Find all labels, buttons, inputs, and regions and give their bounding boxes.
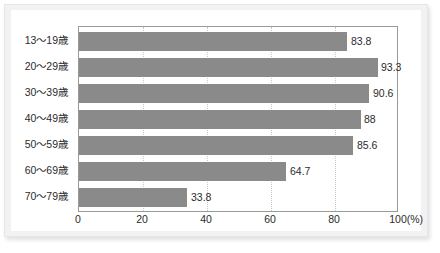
category-label: 50〜59歳	[25, 139, 68, 150]
xtick-label: 80	[328, 214, 340, 225]
bar-value-label: 88	[364, 114, 376, 125]
bar-30-39	[79, 84, 369, 103]
bar-value-label: 93.3	[381, 62, 401, 73]
bar-series: 83.8 93.3 90.6 88 85.6 64.7 33.8	[79, 27, 397, 211]
category-label: 20〜29歳	[25, 61, 68, 72]
value-axis: 0 20 40 60 80 100(%)	[0, 214, 440, 234]
bar-value-label: 83.8	[351, 36, 371, 47]
bar-value-label: 33.8	[191, 192, 211, 203]
xtick-label: 100(%)	[389, 214, 423, 225]
chart-figure: 13〜19歳 20〜29歳 30〜39歳 40〜49歳 50〜59歳 60〜69…	[0, 0, 440, 253]
xtick-label: 20	[136, 214, 148, 225]
bar-60-69	[79, 162, 286, 181]
xtick-label: 60	[264, 214, 276, 225]
bar-70-79	[79, 188, 187, 207]
category-label: 40〜49歳	[25, 113, 68, 124]
bar-13-19	[79, 32, 347, 51]
bar-chart: 13〜19歳 20〜29歳 30〜39歳 40〜49歳 50〜59歳 60〜69…	[0, 0, 440, 253]
xtick-label: 40	[200, 214, 212, 225]
bar-20-29	[79, 58, 378, 77]
bar-value-label: 90.6	[373, 88, 393, 99]
xtick-label: 0	[75, 214, 81, 225]
category-label: 60〜69歳	[25, 165, 68, 176]
category-label: 13〜19歳	[25, 35, 68, 46]
bar-value-label: 85.6	[357, 140, 377, 151]
bar-40-49	[79, 110, 361, 129]
bar-value-label: 64.7	[290, 166, 310, 177]
category-label: 30〜39歳	[25, 87, 68, 98]
category-axis: 13〜19歳 20〜29歳 30〜39歳 40〜49歳 50〜59歳 60〜69…	[0, 26, 74, 212]
bar-50-59	[79, 136, 353, 155]
category-label: 70〜79歳	[25, 191, 68, 202]
